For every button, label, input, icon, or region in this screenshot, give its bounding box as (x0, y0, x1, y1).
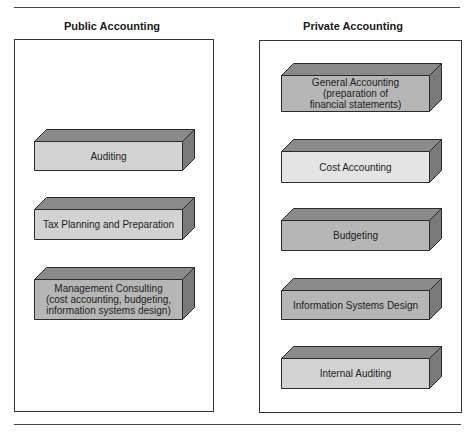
box-label: Internal Auditing (281, 358, 430, 389)
box-label: Management Consulting (cost accounting, … (34, 279, 183, 320)
box-label: Information Systems Design (281, 290, 430, 320)
top-rule (14, 7, 460, 8)
box-label: Budgeting (281, 220, 430, 251)
private-accounting-heading: Private Accounting (253, 20, 453, 32)
public-accounting-heading: Public Accounting (12, 20, 212, 32)
box-label: Tax Planning and Preparation (34, 209, 183, 240)
box-label: Cost Accounting (281, 151, 430, 183)
bottom-rule (14, 424, 461, 425)
box-label: Auditing (34, 141, 183, 171)
box-label: General Accounting (preparation of finan… (281, 75, 430, 112)
